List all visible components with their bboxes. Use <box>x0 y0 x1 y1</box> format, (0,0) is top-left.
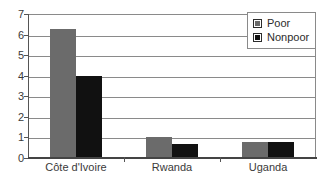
bar-poor-1 <box>146 137 172 158</box>
legend: Poor Nonpoor <box>247 12 316 49</box>
legend-item-nonpoor[interactable]: Nonpoor <box>253 30 309 44</box>
y-tick-label: 7 <box>2 9 24 20</box>
y-tick-label: 5 <box>2 50 24 61</box>
y-tick-label: 1 <box>2 132 24 143</box>
x-tick-mark <box>220 157 221 162</box>
x-tick-label: Uganda <box>220 161 316 173</box>
legend-item-poor[interactable]: Poor <box>253 16 309 30</box>
legend-swatch-poor-icon <box>253 19 262 28</box>
bar-nonpoor-1 <box>172 144 198 158</box>
bar-nonpoor-0 <box>76 76 102 158</box>
x-tick-label: Côte d'Ivoire <box>28 161 124 173</box>
x-tick-mark <box>124 157 125 162</box>
y-tick-label: 2 <box>2 112 24 123</box>
legend-label-nonpoor: Nonpoor <box>267 32 309 43</box>
x-axis-labels: Côte d'IvoireRwandaUganda <box>28 161 317 181</box>
y-tick-label: 6 <box>2 30 24 41</box>
bar-poor-0 <box>50 29 76 158</box>
bar-chart: 01234567 Côte d'IvoireRwandaUganda Poor … <box>0 0 321 185</box>
y-tick-label: 3 <box>2 91 24 102</box>
y-axis: 01234567 <box>0 0 24 185</box>
legend-label-poor: Poor <box>267 18 290 29</box>
bar-poor-2 <box>242 142 268 158</box>
bar-nonpoor-2 <box>268 142 294 158</box>
x-tick-label: Rwanda <box>124 161 220 173</box>
legend-swatch-nonpoor-icon <box>253 33 262 42</box>
x-axis-line <box>28 157 317 159</box>
y-tick-label: 4 <box>2 71 24 82</box>
y-tick-label: 0 <box>2 153 24 164</box>
